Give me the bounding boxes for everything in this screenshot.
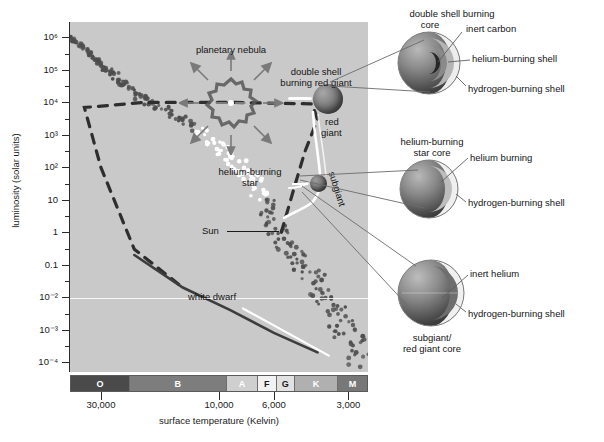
main-sequence-dot xyxy=(133,91,136,94)
y-tick-major xyxy=(62,297,69,298)
main-sequence-dot xyxy=(335,324,339,328)
main-sequence-dot xyxy=(111,77,115,81)
y-tick-major xyxy=(62,265,69,266)
y-tick-major xyxy=(62,167,69,168)
main-sequence-dot xyxy=(251,188,254,191)
main-sequence-dot xyxy=(336,312,340,316)
main-sequence-dot xyxy=(108,73,112,77)
xsec2-callout-lines xyxy=(430,150,550,240)
main-sequence-dot xyxy=(145,97,150,102)
main-sequence-dot xyxy=(264,223,268,227)
main-sequence-dot xyxy=(271,206,276,211)
main-sequence-dot xyxy=(277,237,281,241)
main-sequence-dot xyxy=(323,273,327,277)
label-sun: Sun xyxy=(202,225,219,236)
main-sequence-dot xyxy=(117,71,121,75)
main-sequence-dot xyxy=(104,68,109,73)
main-sequence-dot xyxy=(347,320,350,323)
main-sequence-dot xyxy=(314,270,318,274)
main-sequence-dot xyxy=(138,94,143,99)
main-sequence-dot xyxy=(273,240,277,244)
main-sequence-dot xyxy=(359,341,363,345)
helium-burning-star-sphere xyxy=(310,175,327,192)
main-sequence-dot xyxy=(123,82,127,86)
main-sequence-dot xyxy=(127,85,131,89)
x-tick-label: 30,000 xyxy=(86,399,115,410)
main-sequence-dot xyxy=(292,268,296,272)
main-sequence-dot xyxy=(301,252,305,256)
main-sequence-dot xyxy=(258,198,262,202)
y-tick-minor xyxy=(65,184,69,185)
white-dwarf-track-bright xyxy=(243,309,329,356)
main-sequence-dot xyxy=(74,40,78,44)
y-axis-title: luminosity (solar units) xyxy=(10,81,21,281)
planetary-nebula-graphic xyxy=(198,70,264,136)
main-sequence-dot xyxy=(266,215,269,218)
main-sequence-dot xyxy=(237,159,241,163)
spectral-class-K: K xyxy=(295,376,338,391)
main-sequence-dot xyxy=(339,308,343,312)
main-sequence-dot xyxy=(265,191,270,196)
main-sequence-dot xyxy=(259,178,263,182)
main-sequence-dot xyxy=(308,270,312,274)
main-sequence-dot xyxy=(351,323,355,327)
spectral-class-bar: OBAFGKM xyxy=(70,375,368,392)
main-sequence-dot xyxy=(272,217,276,221)
y-tick-major xyxy=(62,37,69,38)
y-tick-major xyxy=(62,232,69,233)
y-tick-major xyxy=(62,70,69,71)
main-sequence-dot xyxy=(327,324,331,328)
label-helium-burning-line2: star xyxy=(242,177,258,188)
main-sequence-dot xyxy=(249,194,253,198)
main-sequence-dot xyxy=(82,46,86,50)
main-sequence-dot xyxy=(362,337,366,341)
main-sequence-dot xyxy=(314,287,317,290)
y-tick-minor xyxy=(65,216,69,217)
main-sequence-dot xyxy=(346,355,351,360)
y-tick-label: 10⁵ xyxy=(12,65,58,75)
y-tick-minor xyxy=(65,314,69,315)
main-sequence-dot xyxy=(350,349,354,353)
main-sequence-dot xyxy=(367,352,368,356)
main-sequence-dot xyxy=(300,260,305,265)
y-tick-major xyxy=(62,135,69,136)
y-axis-spine xyxy=(69,22,70,372)
main-sequence-dot xyxy=(244,158,249,163)
spectral-class-A: A xyxy=(227,376,258,391)
main-sequence-dot xyxy=(346,362,351,367)
main-sequence-dot xyxy=(295,257,298,260)
y-tick-major xyxy=(62,362,69,363)
y-tick-major xyxy=(62,330,69,331)
xsec3-callout-lines xyxy=(430,266,550,356)
spectral-class-F: F xyxy=(258,376,276,391)
spectral-class-B: B xyxy=(130,376,227,391)
main-sequence-dot xyxy=(351,344,355,348)
main-sequence-dot xyxy=(284,251,289,256)
main-sequence-dot xyxy=(289,255,293,259)
main-sequence-dot xyxy=(294,245,299,250)
x-tick-label: 10,000 xyxy=(204,399,233,410)
y-tick-minor xyxy=(65,346,69,347)
main-sequence-dot xyxy=(265,200,269,204)
main-sequence-dot xyxy=(88,53,92,57)
main-sequence-dot xyxy=(301,270,304,273)
main-sequence-dot xyxy=(273,199,276,202)
main-sequence-dot xyxy=(133,97,138,102)
main-sequence-dot xyxy=(344,305,348,309)
main-sequence-dot xyxy=(301,264,306,269)
main-sequence-dot xyxy=(164,108,168,112)
main-sequence-dot xyxy=(295,261,298,264)
y-tick-minor xyxy=(65,86,69,87)
x-axis-title: surface temperature (Kelvin) xyxy=(70,415,368,426)
main-sequence-dot xyxy=(343,314,348,319)
main-sequence-dot xyxy=(326,288,330,292)
main-sequence-dot xyxy=(331,307,336,312)
spectral-class-G: G xyxy=(277,376,295,391)
y-tick-minor xyxy=(65,54,69,55)
y-tick-major xyxy=(62,102,69,103)
label-helium-burning-line1: helium-burning xyxy=(219,166,282,177)
sun-leader-line xyxy=(227,231,279,232)
xsec2-title-line1: helium-burning xyxy=(401,136,464,148)
main-sequence-dot xyxy=(276,232,280,236)
main-sequence-dot xyxy=(169,109,173,113)
